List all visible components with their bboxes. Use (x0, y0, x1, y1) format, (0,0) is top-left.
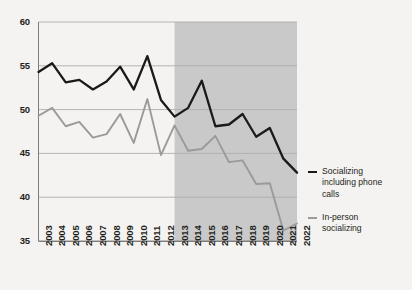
x-axis-tick-label: 2005 (70, 225, 81, 246)
x-axis-tick-label: 2007 (97, 225, 108, 246)
y-axis-tick-label: 40 (2, 191, 30, 202)
chart-container: 354045505560 200320042005200620072008200… (0, 0, 412, 290)
x-axis-tick-label: 2021 (287, 225, 298, 246)
shaded-region-recent-years (175, 22, 297, 241)
legend-label-line2: including phone (322, 177, 382, 188)
shaded-band-group (175, 22, 297, 241)
x-axis-tick-label: 2003 (43, 225, 54, 246)
x-axis-tick-label: 2015 (206, 225, 217, 246)
x-axis-tick-label: 2014 (192, 225, 203, 246)
x-axis-tick-label: 2018 (247, 225, 258, 246)
line-chart (0, 0, 412, 290)
x-axis-tick-label: 2012 (165, 225, 176, 246)
legend-label-line1: Socializing (322, 166, 382, 177)
x-axis-tick-label: 2013 (179, 225, 190, 246)
y-axis-tick-label: 60 (2, 16, 30, 27)
x-axis-tick-label: 2008 (111, 225, 122, 246)
x-axis-tick-label: 2020 (274, 225, 285, 246)
x-axis-tick-label: 2006 (83, 225, 94, 246)
y-axis-tick-label: 55 (2, 60, 30, 71)
legend-line-swatch-black (308, 171, 317, 173)
legend: Socializing including phone calls In-per… (308, 166, 382, 235)
legend-label-line3: calls (322, 189, 382, 200)
x-axis-tick-label: 2011 (151, 226, 162, 246)
x-axis-tick-label: 2009 (124, 225, 135, 246)
y-axis-tick-label: 50 (2, 104, 30, 115)
y-axis-tick-label: 45 (2, 147, 30, 158)
y-axis-tick-label: 35 (2, 235, 30, 246)
x-axis-tick-label: 2017 (233, 225, 244, 246)
x-axis-tick-label: 2004 (56, 225, 67, 246)
legend-line-swatch-gray (308, 217, 317, 219)
legend-label-line2: socializing (322, 223, 382, 234)
legend-item-in-person-socializing: In-person socializing (308, 212, 382, 235)
x-axis-tick-label: 2019 (260, 225, 271, 246)
x-axis-tick-label: 2010 (138, 225, 149, 246)
x-axis-tick-label: 2016 (219, 225, 230, 246)
legend-item-socializing-including-phone-calls: Socializing including phone calls (308, 166, 382, 200)
legend-label-line1: In-person (322, 212, 382, 223)
